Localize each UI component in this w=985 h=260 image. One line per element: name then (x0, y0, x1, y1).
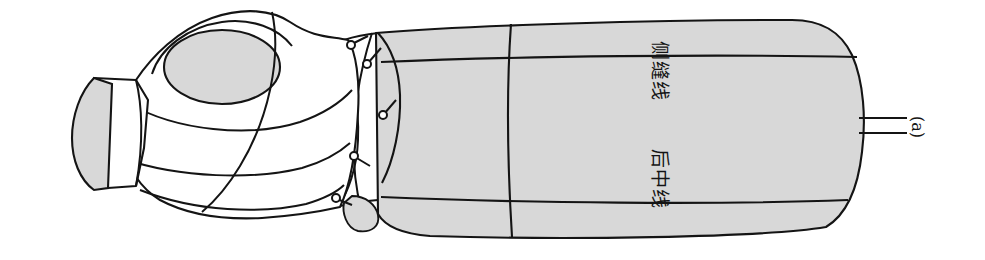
left-body-group (123, 11, 359, 218)
neck-stump-group (72, 78, 148, 190)
armhole-ellipse (164, 30, 280, 104)
label-back-center-line: 后中线 (649, 131, 671, 227)
right-panel-group (376, 20, 864, 238)
caption-leader-lines (859, 118, 907, 133)
technical-illustration-figure: 侧缝线 后中线 (a) (0, 0, 985, 260)
label-side-seam-line: 侧缝线 (649, 23, 671, 119)
neck-stump-end-ellipse (72, 78, 112, 190)
figure-caption-a: (a) (906, 110, 928, 144)
right-panel-body (376, 20, 864, 238)
figure-line-art (0, 0, 985, 260)
